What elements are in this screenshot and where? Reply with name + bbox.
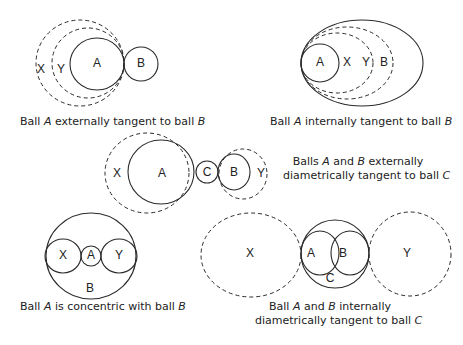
label-x: X (246, 246, 254, 260)
caption-text: externally tangent to ball (51, 115, 197, 128)
caption-ball-c: C (443, 169, 451, 182)
label-y: Y (57, 62, 65, 76)
label-b: B (86, 281, 94, 295)
caption-ball-b: B (198, 115, 206, 128)
caption-concentric: Ball A is concentric with ball B (20, 300, 186, 314)
caption-ball-b: B (178, 300, 186, 313)
label-y: Y (362, 55, 370, 69)
label-a: A (158, 166, 166, 180)
caption-line-1: Balls A and B externally (283, 155, 433, 169)
label-c: C (326, 271, 335, 285)
label-b: B (137, 56, 145, 70)
label-b: B (339, 246, 347, 260)
caption-ball-b: B (445, 115, 453, 128)
label-b: B (230, 165, 238, 179)
caption-text: internally (336, 300, 391, 313)
label-a: A (93, 56, 101, 70)
caption-line-1: Ball A and B internally (255, 300, 405, 314)
caption-internally-diametrically-tangent: Ball A and B internally diametrically ta… (255, 300, 405, 328)
caption-text: and (300, 300, 328, 313)
caption-text: Ball (269, 300, 293, 313)
diagram-externally-diametrically-tangent: X A C B Y (105, 133, 267, 213)
caption-text: is concentric with ball (51, 300, 178, 313)
label-y: Y (403, 246, 411, 260)
caption-line-2: diametrically tangent to ball C (283, 169, 433, 183)
ball-x-dashed (36, 20, 124, 106)
ball-b (331, 231, 369, 275)
caption-text: diametrically tangent to ball (283, 169, 443, 182)
caption-ball-a: A (322, 155, 330, 168)
caption-text: diametrically tangent to ball (255, 314, 415, 327)
label-c: C (203, 165, 212, 179)
label-a: A (307, 246, 315, 260)
label-a: A (87, 248, 95, 262)
caption-text: Ball (20, 115, 44, 128)
diagram-externally-tangent: X Y A B (36, 20, 158, 106)
diagram-internally-tangent: A X Y B (301, 20, 423, 106)
label-a: A (316, 55, 324, 69)
label-y: Y (257, 166, 265, 180)
caption-ball-b: B (328, 300, 336, 313)
diagram-concentric: X A Y B (45, 213, 137, 299)
caption-line-2: diametrically tangent to ball C (255, 314, 405, 328)
label-x: X (37, 62, 45, 76)
caption-text: and (330, 155, 358, 168)
label-b: B (380, 55, 388, 69)
caption-text: internally tangent to ball (301, 115, 444, 128)
caption-externally-diametrically-tangent: Balls A and B externally diametrically t… (283, 155, 433, 183)
diagram-internally-diametrically-tangent: X A B C Y (201, 212, 451, 297)
caption-text: Balls (293, 155, 323, 168)
caption-text: Ball (20, 300, 44, 313)
caption-ball-b: B (358, 155, 366, 168)
label-y: Y (115, 248, 123, 262)
caption-text: Ball (270, 115, 294, 128)
label-x: X (59, 248, 67, 262)
caption-ball-c: C (415, 314, 423, 327)
caption-externally-tangent: Ball A externally tangent to ball B (20, 115, 205, 129)
label-x: X (113, 166, 121, 180)
caption-text: externally (365, 155, 423, 168)
label-x: X (343, 55, 351, 69)
caption-internally-tangent: Ball A internally tangent to ball B (270, 115, 452, 129)
